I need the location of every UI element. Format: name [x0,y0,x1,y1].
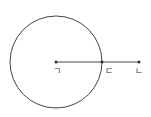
point-intersection [101,61,104,64]
point-center [55,61,58,64]
geometry-diagram [0,0,151,117]
label-intersection: ㄷ [105,67,113,76]
point-end [138,61,141,64]
label-center: ㄱ [53,67,61,76]
label-end: ㄴ [135,67,143,76]
